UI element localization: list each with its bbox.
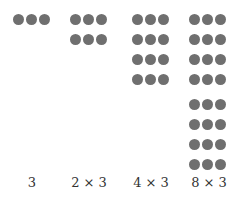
dot [215, 54, 226, 65]
dot [215, 74, 226, 85]
dot [26, 14, 37, 25]
dot [202, 74, 213, 85]
dot [202, 99, 213, 110]
dot [189, 119, 200, 130]
dot [189, 74, 200, 85]
dot [145, 14, 156, 25]
dot [158, 14, 169, 25]
dot [158, 34, 169, 45]
dot [83, 34, 94, 45]
dot [215, 34, 226, 45]
dot [158, 74, 169, 85]
dot [39, 14, 50, 25]
dot [96, 34, 107, 45]
dot [70, 14, 81, 25]
group-label-2: 2 × 3 [64, 175, 114, 190]
dot [132, 74, 143, 85]
dot [215, 99, 226, 110]
dot [132, 14, 143, 25]
dot [202, 14, 213, 25]
dot [215, 139, 226, 150]
group-label-3: 4 × 3 [126, 175, 176, 190]
dot [145, 54, 156, 65]
dot [202, 139, 213, 150]
dot [202, 54, 213, 65]
dot [132, 34, 143, 45]
dot [132, 54, 143, 65]
dot [202, 159, 213, 170]
dot [189, 54, 200, 65]
dot [189, 139, 200, 150]
dot [96, 14, 107, 25]
dot [202, 119, 213, 130]
dot [189, 159, 200, 170]
dot [145, 34, 156, 45]
dot [189, 14, 200, 25]
dot [13, 14, 24, 25]
dot [215, 14, 226, 25]
dot [189, 99, 200, 110]
dot [158, 54, 169, 65]
dot [189, 34, 200, 45]
dot [70, 34, 81, 45]
dot [215, 119, 226, 130]
dot [215, 159, 226, 170]
dot [202, 34, 213, 45]
group-label-1: 3 [7, 175, 57, 190]
group-label-4: 8 × 3 [184, 175, 234, 190]
dot [83, 14, 94, 25]
dot [145, 74, 156, 85]
